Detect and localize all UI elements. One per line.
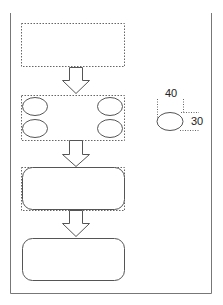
width-label: 40 (165, 88, 177, 99)
height-label: 30 (191, 116, 203, 127)
step-4-rounded-rectangle[interactable] (23, 239, 125, 281)
ellipse-top-left[interactable] (23, 98, 48, 116)
step-1-dotted-rectangle[interactable] (22, 24, 125, 67)
down-arrow-icon (63, 141, 90, 167)
sample-ellipse (157, 113, 183, 131)
rounded-rectangle-shape[interactable] (23, 168, 125, 210)
down-arrow-icon (63, 68, 90, 94)
ellipse-bottom-left[interactable] (23, 120, 48, 138)
ellipse-bottom-right[interactable] (98, 120, 123, 138)
diagram-canvas (0, 0, 223, 305)
step-2-ellipse-group[interactable] (22, 96, 125, 141)
down-arrow-icon (63, 211, 90, 237)
ellipse-top-right[interactable] (98, 98, 123, 116)
step-3-rounded-rectangle[interactable] (22, 168, 125, 211)
